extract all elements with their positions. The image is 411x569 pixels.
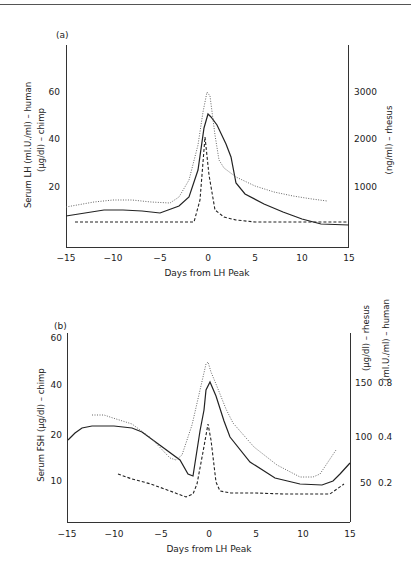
panel-b-ytick-right-rhesus: 50 [360, 478, 372, 488]
panel-a-xtick: 15 [343, 253, 354, 263]
panel-b-series-solid [68, 382, 350, 485]
panel-b-ytick: 60 [51, 333, 63, 343]
panel-b-xtick: 0 [206, 529, 212, 539]
panel-b-ytick-right-rhesus: 150 [355, 378, 372, 388]
panel-a-ytick: 40 [49, 134, 61, 144]
panel-a-ylabel-left-2: (µg/dl) – chimp [36, 108, 46, 172]
figure: (a) 60 40 20 3000 2000 1000 −15 −10 −5 0… [0, 0, 411, 569]
panel-a-xlabel: Days from LH Peak [164, 268, 250, 278]
panel-b-xtick: 15 [344, 529, 355, 539]
panel-b-xtick: 10 [297, 529, 309, 539]
panel-b-series-dotted [92, 362, 336, 477]
panel-b-ytick: 10 [51, 476, 63, 486]
panel-a-ylabel-right: (ng/ml) – rhesus [384, 105, 394, 174]
panel-b-ylabel-left: Serum FSH (µg/dl) – chimp [36, 368, 46, 482]
panel-b: (b) 60 40 20 10 150 100 50 0.8 0.4 0.2 −… [36, 299, 393, 554]
panel-b-xtick: −10 [105, 529, 124, 539]
panel-a-ytick-right: 1000 [354, 182, 377, 192]
panel-a-ytick-right: 3000 [354, 87, 377, 97]
panel-b-ytick-right-rhesus: 100 [355, 432, 372, 442]
panel-b-ylabel-right-2: (mI.U./ml) – human [381, 299, 391, 381]
panel-a-xtick: −10 [104, 253, 123, 263]
panel-a-ytick: 20 [49, 182, 61, 192]
panel-b-xtick: 5 [253, 529, 259, 539]
panel-a-ylabel-left-1: Serum LH (mI.U./ml) – human [23, 82, 33, 208]
panel-b-xlabel: Days from LH Peak [166, 544, 252, 554]
panel-a: (a) 60 40 20 3000 2000 1000 −15 −10 −5 0… [23, 30, 394, 278]
panel-b-series-dashed [118, 424, 344, 497]
panel-b-xtick: −15 [58, 529, 77, 539]
panel-a-series-dotted [66, 92, 327, 207]
panel-b-ylabel-right-1: (µg/dl) – rhesus [361, 304, 371, 370]
panel-a-series-dashed [75, 137, 349, 222]
panel-b-xtick: −5 [154, 529, 167, 539]
panel-a-ytick: 60 [49, 87, 61, 97]
panel-a-label: (a) [56, 30, 69, 40]
panel-a-xtick: 0 [205, 253, 211, 263]
panel-b-ytick-right-human: 0.4 [378, 432, 393, 442]
panel-b-ytick: 20 [51, 430, 63, 440]
panel-a-xtick: −5 [153, 253, 166, 263]
panel-a-series-solid [66, 114, 349, 225]
panel-a-xtick: 10 [296, 253, 308, 263]
panel-a-ytick-right: 2000 [354, 134, 377, 144]
panel-a-xtick: 5 [252, 253, 258, 263]
panel-b-ytick: 40 [51, 380, 63, 390]
panel-a-xtick: −15 [57, 253, 76, 263]
panel-b-label: (b) [54, 321, 67, 331]
panel-b-ytick-right-human: 0.2 [378, 478, 392, 488]
